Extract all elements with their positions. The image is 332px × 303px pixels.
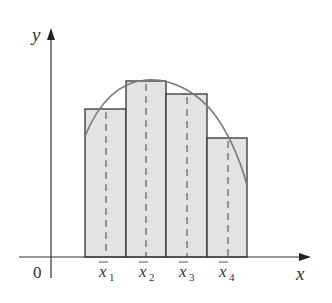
rectangles (85, 81, 247, 257)
svg-text:1: 1 (109, 271, 115, 283)
sample-point-labels: x 1 x 2 x 3 x 4 (98, 262, 235, 283)
svg-text:x: x (178, 262, 187, 281)
svg-text:x: x (218, 262, 227, 281)
sample-point-label-4: x 4 (218, 262, 235, 283)
svg-text:x: x (138, 262, 147, 281)
svg-text:2: 2 (149, 271, 155, 283)
riemann-sum-diagram: y x 0 x 1 x 2 x 3 x 4 (0, 0, 332, 303)
x-axis-label: x (295, 263, 305, 284)
origin-label: 0 (33, 263, 42, 282)
rectangle-4 (207, 138, 247, 257)
y-axis-label: y (30, 24, 41, 45)
sample-point-label-3: x 3 (178, 262, 195, 283)
svg-text:4: 4 (229, 271, 235, 283)
sample-point-label-2: x 2 (138, 262, 155, 283)
x-axis-arrow-icon (299, 253, 311, 261)
sample-point-label-1: x 1 (98, 262, 115, 283)
svg-text:3: 3 (189, 271, 195, 283)
y-axis-arrow-icon (47, 28, 55, 40)
svg-text:x: x (98, 262, 107, 281)
